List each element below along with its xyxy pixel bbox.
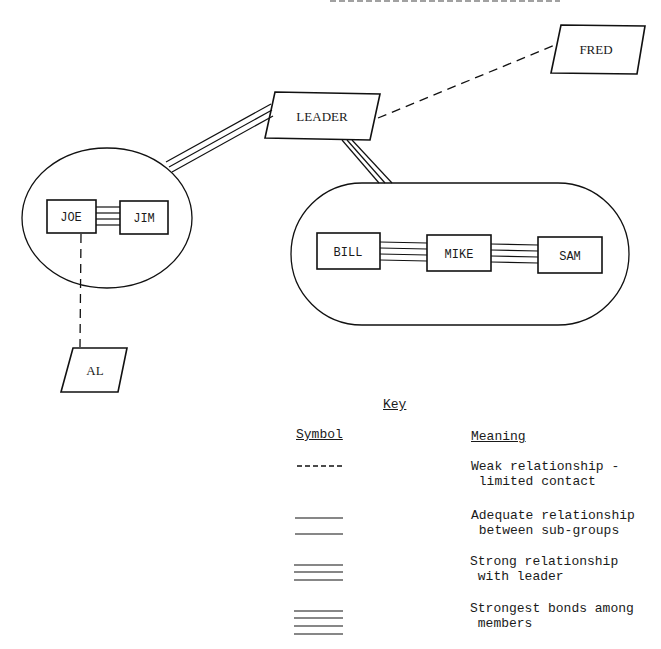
svg-text:FRED: FRED [579,42,612,57]
key-meaning-weak-line2: limited contact [471,474,619,489]
key-meaning-strong-line1: Strong relationship [470,554,618,569]
node-mike: MIKE [427,235,491,271]
edge-bill-mike-strongest [380,242,427,261]
key-entry-adequate: Adequate relationship between sub-groups [471,508,635,538]
node-al: AL [61,348,127,392]
node-bill: BILL [317,233,380,269]
edge-leader-rightgroup-strong [342,140,392,183]
key-meaning-adequate-line2: between sub-groups [471,523,635,538]
svg-text:JOE: JOE [60,211,82,225]
svg-text:AL: AL [86,363,103,378]
edge-joe-al-weak [80,234,81,347]
key-meaning-weak-line1: Weak relationship - [471,459,619,474]
node-leader: LEADER [265,92,380,140]
svg-text:LEADER: LEADER [296,109,348,124]
edge-leader-fred-weak [378,45,555,118]
node-fred: FRED [551,25,645,74]
key-title: Key [383,397,406,412]
edge-joe-jim-strongest [96,207,120,225]
key-symbol-strongest [294,611,343,634]
group-relationship-diagram: FRED LEADER JOE JIM AL [0,0,661,649]
key-meaning-strongest-line2: members [470,616,634,631]
key-symbol-adequate [295,518,343,534]
edge-mike-sam-strongest [491,244,538,263]
key-entry-strongest: Strongest bonds among members [470,601,634,631]
key-symbol-header: Symbol [296,427,343,442]
key-entry-strong: Strong relationship with leader [470,554,618,584]
key-symbol-strong [294,565,343,580]
key-entry-weak: Weak relationship - limited contact [471,459,619,489]
svg-text:MIKE: MIKE [445,248,474,262]
key-meaning-strong-line2: with leader [470,569,618,584]
edge-leader-leftgroup-strong [166,104,273,172]
key-meaning-strongest-line1: Strongest bonds among [470,601,634,616]
svg-text:BILL: BILL [334,246,363,260]
key-meaning-header: Meaning [471,429,526,444]
node-sam: SAM [538,237,602,273]
key-meaning-adequate-line1: Adequate relationship [471,508,635,523]
node-joe: JOE [47,200,96,233]
svg-text:SAM: SAM [559,250,581,264]
svg-text:JIM: JIM [133,212,155,226]
node-jim: JIM [120,201,168,234]
